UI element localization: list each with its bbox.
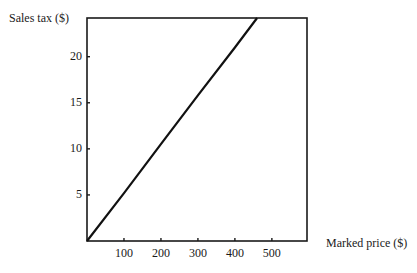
y-axis-label: Sales tax ($) — [9, 11, 69, 26]
x-tick-label: 100 — [109, 246, 139, 261]
x-tick-label: 500 — [257, 246, 287, 261]
y-tick-label: 10 — [58, 141, 82, 156]
x-tick-label: 300 — [183, 246, 213, 261]
x-tick-label: 200 — [146, 246, 176, 261]
plot-frame — [87, 18, 307, 241]
x-tick-label: 400 — [220, 246, 250, 261]
x-axis-label: Marked price ($) — [326, 236, 407, 251]
y-tick-label: 15 — [58, 95, 82, 110]
sales-tax-line — [87, 18, 257, 241]
y-tick-label: 20 — [58, 49, 82, 64]
y-tick-label: 5 — [58, 187, 82, 202]
chart-plot — [0, 0, 417, 273]
